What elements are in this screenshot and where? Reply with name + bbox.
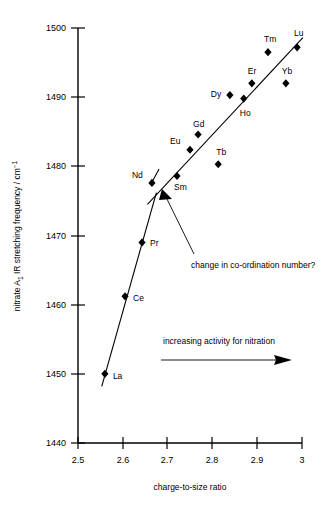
- data-point-lu: Lu: [293, 28, 303, 51]
- diamond-marker-icon: [226, 91, 233, 99]
- data-point-label-eu: Eu: [170, 136, 181, 146]
- line-break-marker-group: [152, 169, 159, 182]
- data-point-label-dy: Dy: [211, 89, 222, 99]
- data-point-label-tb: Tb: [216, 147, 226, 157]
- y-tick-label-1500: 1500: [46, 23, 66, 33]
- data-point-tb: Tb: [215, 147, 227, 168]
- data-point-yb: Yb: [282, 66, 293, 87]
- y-tick-label-1440: 1440: [46, 438, 66, 448]
- data-point-label-yb: Yb: [282, 66, 293, 76]
- trend-lines-group: [102, 38, 303, 387]
- data-point-sm: Sm: [173, 172, 186, 192]
- y-tick-label-1450: 1450: [46, 369, 66, 379]
- diamond-marker-icon: [138, 238, 145, 246]
- diamond-marker-icon: [194, 130, 201, 138]
- coordination-annotation: change in co-ordination number?: [159, 189, 316, 270]
- line-break-slash-icon: [152, 169, 159, 182]
- data-point-ho: Ho: [240, 94, 251, 117]
- data-point-nd: Nd: [132, 170, 156, 187]
- data-point-gd: Gd: [193, 119, 205, 139]
- x-tick-label-2-9: 2.9: [251, 455, 264, 465]
- data-points-group: LaCePrNdSmEuGdTbDyHoErTmYbLu: [101, 28, 304, 380]
- svg-text:nitrate A1 IR stretching frequ: nitrate A1 IR stretching frequency / cm−…: [11, 160, 24, 311]
- x-axis-title: charge-to-size ratio: [154, 482, 227, 492]
- data-point-er: Er: [248, 66, 257, 87]
- data-point-label-la: La: [113, 371, 123, 381]
- activity-annotation: increasing activity for nitration: [161, 336, 292, 365]
- data-point-label-er: Er: [248, 66, 257, 76]
- activity-annotation-arrowhead: [274, 355, 292, 365]
- diamond-marker-icon: [248, 79, 255, 87]
- data-point-eu: Eu: [170, 136, 194, 154]
- x-tick-label-2-8: 2.8: [206, 455, 219, 465]
- y-axis-title: nitrate A1 IR stretching frequency / cm−…: [11, 160, 24, 311]
- y-tick-label-1480: 1480: [46, 161, 66, 171]
- diamond-marker-icon: [264, 48, 271, 56]
- coordination-annotation-leader: [166, 197, 194, 254]
- y-tick-label-1470: 1470: [46, 231, 66, 241]
- data-point-ce: Ce: [121, 292, 144, 303]
- data-point-tm: Tm: [264, 34, 276, 56]
- diamond-marker-icon: [173, 172, 180, 180]
- diamond-marker-icon: [101, 370, 108, 378]
- data-point-label-lu: Lu: [294, 28, 304, 38]
- lower-steep-line: [102, 193, 157, 387]
- x-tick-label-2-7: 2.7: [161, 455, 174, 465]
- data-point-dy: Dy: [211, 89, 234, 99]
- y-tick-label-1490: 1490: [46, 92, 66, 102]
- data-point-label-sm: Sm: [174, 182, 187, 192]
- diamond-marker-icon: [186, 146, 193, 154]
- data-point-label-pr: Pr: [150, 238, 159, 248]
- coordination-annotation-text: change in co-ordination number?: [191, 260, 316, 270]
- data-point-label-gd: Gd: [193, 119, 205, 129]
- data-point-label-tm: Tm: [264, 34, 276, 44]
- x-tick-label-3: 3: [299, 455, 304, 465]
- data-point-label-nd: Nd: [132, 170, 143, 180]
- y-axis-title-main: nitrate A: [12, 280, 22, 312]
- x-tick-label-2-5: 2.5: [72, 455, 85, 465]
- y-axis-title-sup: −1: [11, 160, 18, 168]
- diamond-marker-icon: [148, 179, 155, 187]
- data-point-la: La: [101, 370, 122, 381]
- chart-canvas: 1500 1490 1480 1470 1460 1450 1440 2.5 2…: [0, 0, 322, 512]
- diamond-marker-icon: [240, 94, 247, 102]
- diamond-marker-icon: [282, 79, 289, 87]
- data-point-label-ho: Ho: [240, 108, 251, 118]
- diamond-marker-icon: [215, 160, 222, 168]
- data-point-label-ce: Ce: [133, 293, 144, 303]
- activity-annotation-text: increasing activity for nitration: [163, 336, 275, 346]
- x-tick-label-2-6: 2.6: [117, 455, 130, 465]
- chart-figure: 1500 1490 1480 1470 1460 1450 1440 2.5 2…: [0, 0, 322, 512]
- y-tick-label-1460: 1460: [46, 300, 66, 310]
- upper-trend-line: [147, 38, 302, 205]
- y-axis-title-rest: IR stretching frequency / cm: [12, 168, 22, 276]
- diamond-marker-icon: [293, 43, 300, 51]
